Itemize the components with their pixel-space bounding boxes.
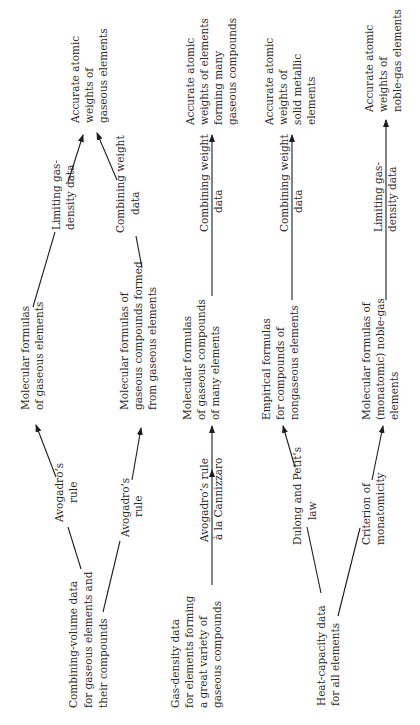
formula-gaseous-elements: Molecular formulas of gaseous elements [19, 302, 45, 410]
svg-text:rule: rule [67, 482, 79, 503]
result-noble-gas: Accurate atomic weights of noble-gas ele… [363, 9, 403, 113]
rule-combining-weight-b: Combining weight data [198, 134, 224, 232]
svg-text:data: data [129, 192, 141, 215]
svg-text:Combining weight: Combining weight [114, 135, 126, 233]
result-many-gaseous-compounds: Accurate atomic weights of elements form… [184, 18, 238, 126]
formula-gaseous-compounds-formed: Molecular formulas of gaseous compounds … [118, 261, 158, 410]
svg-text:Criterion of: Criterion of [360, 482, 372, 545]
rule-monatomicity: Criterion of monatomicity [360, 472, 386, 545]
svg-text:weights of: weights of [83, 67, 95, 123]
svg-text:for all elements: for all elements [329, 623, 341, 706]
svg-text:Empirical formulas: Empirical formulas [260, 318, 272, 420]
edge-avogadro-b-to-formula [132, 428, 141, 480]
svg-text:rule: rule [132, 496, 144, 517]
source-gas-density: Gas-density data for elements forming a … [169, 595, 223, 708]
rule-dulong-petit: Dulong and Petit’s law [291, 447, 318, 545]
svg-text:Accurate atomic: Accurate atomic [263, 38, 275, 126]
svg-text:Combining weight: Combining weight [278, 134, 290, 232]
svg-text:Molecular formulas: Molecular formulas [181, 316, 193, 420]
svg-text:Heat-capacity data: Heat-capacity data [315, 605, 327, 706]
svg-text:forming many: forming many [212, 51, 224, 125]
svg-text:for elements forming: for elements forming [183, 595, 195, 708]
svg-text:data: data [212, 190, 224, 213]
rule-combining-weight-a: Combining weight data [114, 135, 141, 233]
edge-dulong-to-empirical [283, 426, 295, 467]
svg-text:Dulong and Petit’s: Dulong and Petit’s [291, 447, 303, 545]
svg-text:gaseous compounds formed: gaseous compounds formed [132, 261, 144, 410]
svg-text:Accurate atomic: Accurate atomic [363, 25, 375, 113]
svg-text:nongaseous elements: nongaseous elements [288, 305, 300, 420]
svg-text:noble-gas elements: noble-gas elements [391, 9, 403, 112]
rule-limiting-gas-density-b: Limiting gas- density data [372, 162, 398, 232]
svg-text:Avogadro’s: Avogadro’s [119, 478, 131, 538]
svg-text:weights of: weights of [277, 69, 289, 125]
svg-text:of many elements: of many elements [209, 326, 221, 420]
svg-text:gaseous compounds: gaseous compounds [226, 18, 238, 125]
flow-diagram: Combining-volume data for gaseous elemen… [0, 0, 420, 725]
svg-text:Molecular formulas: Molecular formulas [19, 306, 31, 410]
edge-heat-to-dulong [307, 527, 321, 593]
svg-text:Avogadro’s rule: Avogadro’s rule [198, 458, 210, 543]
svg-text:Combining weight: Combining weight [198, 134, 210, 232]
svg-text:Molecular formulas of: Molecular formulas of [360, 301, 372, 420]
svg-text:Molecular formulas of: Molecular formulas of [118, 291, 130, 410]
edge-source1-to-avogadro-a [68, 527, 81, 569]
formula-many-elements: Molecular formulas of gaseous compounds … [181, 299, 221, 420]
svg-text:Accurate atomic: Accurate atomic [69, 36, 81, 124]
svg-text:(monatomic) noble-gas: (monatomic) noble-gas [374, 298, 386, 420]
edge-source1-to-avogadro-b [103, 541, 120, 612]
result-gaseous-elements: Accurate atomic weights of gaseous eleme… [69, 28, 109, 124]
svg-text:gaseous compounds: gaseous compounds [211, 601, 223, 708]
svg-text:elements: elements [305, 77, 317, 125]
svg-text:from gaseous elements: from gaseous elements [146, 287, 158, 410]
svg-text:monatomicity: monatomicity [374, 472, 386, 545]
rule-combining-weight-c: Combining weight data [278, 134, 304, 232]
formula-noble-gas: Molecular formulas of (monatomic) noble-… [360, 298, 400, 420]
svg-text:Limiting gas-: Limiting gas- [50, 160, 62, 230]
svg-text:weights of elements: weights of elements [198, 18, 210, 125]
rule-avogadro-cannizzaro: Avogadro’s rule à la Cannizzaro [198, 458, 224, 543]
svg-text:Avogadro’s: Avogadro’s [53, 463, 65, 523]
svg-text:solid metallic: solid metallic [291, 54, 303, 125]
svg-text:Gas-density data: Gas-density data [169, 619, 181, 708]
edge-monatomicity-to-noble [372, 426, 383, 480]
svg-text:Limiting gas-: Limiting gas- [372, 162, 384, 232]
svg-text:for compounds of: for compounds of [274, 326, 286, 420]
svg-text:elements: elements [388, 372, 400, 420]
svg-text:gaseous elements: gaseous elements [97, 28, 109, 123]
svg-text:for gaseous elements and: for gaseous elements and [82, 571, 94, 708]
edge-avogadro-a-to-formula [36, 425, 56, 477]
edge-formula-to-limiting [33, 232, 55, 307]
result-solid-metallic: Accurate atomic weights of solid metalli… [263, 38, 317, 126]
svg-text:of gaseous compounds: of gaseous compounds [195, 299, 207, 420]
edge-heat-to-monatomicity [338, 528, 360, 616]
svg-text:density data: density data [386, 167, 398, 232]
svg-text:data: data [292, 190, 304, 213]
svg-text:weights of: weights of [377, 56, 389, 112]
rule-avogadro-a: Avogadro’s rule [53, 463, 79, 523]
svg-text:à la Cannizzaro: à la Cannizzaro [212, 458, 224, 540]
svg-text:their compounds: their compounds [97, 618, 109, 708]
formula-empirical-nongaseous: Empirical formulas for compounds of nong… [260, 305, 300, 420]
rule-avogadro-b: Avogadro’s rule [119, 478, 144, 538]
source-heat-capacity: Heat-capacity data for all elements [315, 605, 341, 706]
source-combining-volume: Combining-volume data for gaseous elemen… [67, 571, 109, 708]
svg-text:Combining-volume data: Combining-volume data [67, 581, 79, 708]
svg-text:Accurate atomic: Accurate atomic [184, 38, 196, 126]
svg-text:law: law [306, 501, 318, 520]
svg-text:of gaseous elements: of gaseous elements [33, 302, 45, 410]
svg-text:a great variety of: a great variety of [197, 615, 209, 708]
